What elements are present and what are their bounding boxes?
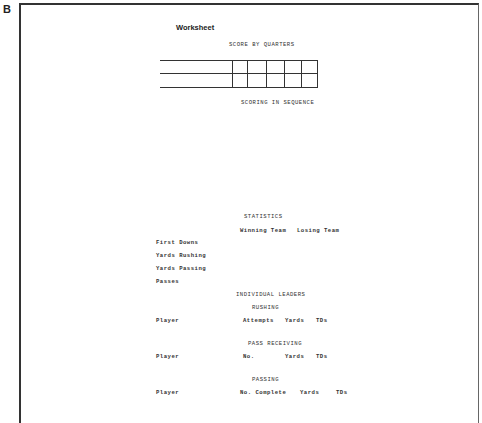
statistics-row-first-downs: First Downs [156,239,198,246]
grid-column-divider [301,60,302,88]
passing-column-tds: TDs [336,389,348,396]
grid-column-divider [284,60,285,88]
statistics-heading: STATISTICS [244,213,283,220]
individual-leaders-heading: INDIVIDUAL LEADERS [236,291,305,298]
rushing-player-label: Player [156,317,179,324]
pass-receiving-column-tds: TDs [316,353,328,360]
figure-label: B [3,3,11,15]
grid-rule-bottom [160,87,317,88]
scoring-in-sequence-heading: SCORING IN SEQUENCE [241,99,314,106]
rushing-column-tds: TDs [316,317,328,324]
grid-column-divider [317,60,318,88]
grid-column-divider [247,60,248,88]
statistics-row-passes: Passes [156,278,179,285]
score-by-quarters-heading: SCORE BY QUARTERS [229,41,295,48]
statistics-row-yards-passing: Yards Passing [156,265,206,272]
grid-column-divider [266,60,267,88]
grid-rule-middle [160,73,317,74]
statistics-column-winning-team: Winning Team [240,227,286,234]
passing-player-label: Player [156,389,179,396]
grid-column-divider [232,60,233,88]
rushing-column-attempts: Attempts [243,317,274,324]
pass-receiving-column-no: No. [243,353,255,360]
pass-receiving-column-yards: Yards [285,353,304,360]
pass-receiving-player-label: Player [156,353,179,360]
worksheet-title: Worksheet [176,23,214,32]
grid-rule-top [160,60,317,61]
passing-column-no-complete: No. Complete [240,389,286,396]
passing-column-yards: Yards [300,389,319,396]
pass-receiving-heading: PASS RECEIVING [248,340,302,347]
statistics-column-losing-team: Losing Team [297,227,339,234]
statistics-row-yards-rushing: Yards Rushing [156,252,206,259]
rushing-heading: RUSHING [252,304,279,311]
passing-heading: PASSING [252,376,279,383]
rushing-column-yards: Yards [285,317,304,324]
